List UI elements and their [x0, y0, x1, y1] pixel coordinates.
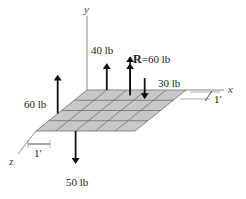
y-axis-label: y	[83, 3, 89, 15]
dimension-z-side: 1′	[28, 140, 50, 159]
force-label-40: 40 lb	[91, 44, 114, 56]
dimension-x-side: 1′	[180, 91, 222, 105]
dimension-x-label: 1′	[214, 93, 222, 105]
dimension-z-label: 1′	[34, 147, 42, 159]
force-label-60: 60 lb	[24, 98, 47, 110]
resultant-symbol: R	[133, 52, 142, 66]
force-label-30: 30 lb	[158, 77, 181, 89]
force-diagram: y x z 1′ 1′ 40 lb R=60 lb 30 lb 60 lb 50…	[0, 0, 246, 199]
force-label-50: 50 lb	[66, 176, 89, 188]
force-label-resultant: R=60 lb	[133, 52, 171, 66]
resultant-value: =60 lb	[142, 53, 171, 65]
z-axis-label: z	[8, 155, 14, 167]
x-axis-label: x	[227, 83, 233, 95]
